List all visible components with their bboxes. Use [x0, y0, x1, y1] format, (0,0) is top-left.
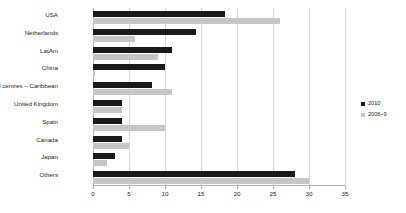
legend: 2010 2006–9 [361, 99, 387, 121]
bar-group [93, 81, 345, 99]
category-label: USA [0, 11, 58, 18]
gridline-35 [345, 8, 346, 186]
legend-item-2010[interactable]: 2010 [361, 99, 387, 108]
bar-2006-9[interactable] [93, 89, 172, 95]
bar-group [93, 28, 345, 46]
tick-mark-20 [237, 186, 238, 189]
legend-swatch-2006-9-icon [361, 113, 365, 117]
bar-group [93, 63, 345, 81]
tick-mark-25 [273, 186, 274, 189]
bar-group [93, 99, 345, 117]
bar-group [93, 46, 345, 64]
bar-2010[interactable] [93, 64, 165, 70]
bar-2006-9[interactable] [93, 178, 309, 184]
bar-2010[interactable] [93, 29, 196, 35]
legend-label-2006-9: 2006–9 [368, 110, 387, 119]
bar-2006-9[interactable] [93, 71, 95, 77]
bar-2006-9[interactable] [93, 125, 165, 131]
tick-mark-15 [201, 186, 202, 189]
tick-mark-30 [309, 186, 310, 189]
bar-2010[interactable] [93, 153, 115, 159]
tick-mark-10 [165, 186, 166, 189]
bar-group [93, 152, 345, 170]
category-label: China [0, 64, 58, 71]
bar-group [93, 135, 345, 153]
bar-chart: USANetherlandsLatAmChinaFinancial centre… [0, 0, 406, 213]
tick-label-15: 15 [189, 190, 213, 197]
category-label: Financial centres – Caribbean [0, 82, 58, 89]
plot-area [93, 8, 345, 186]
tick-label-25: 25 [261, 190, 285, 197]
bar-group [93, 10, 345, 28]
bar-2006-9[interactable] [93, 18, 280, 24]
bar-2010[interactable] [93, 136, 122, 142]
bar-2010[interactable] [93, 11, 225, 17]
bar-group [93, 170, 345, 188]
category-label: Canada [0, 136, 58, 143]
bar-group [93, 117, 345, 135]
legend-swatch-2010-icon [361, 102, 365, 106]
category-label: Netherlands [0, 29, 58, 36]
category-label: Others [0, 171, 58, 178]
bar-2010[interactable] [93, 100, 122, 106]
tick-label-30: 30 [297, 190, 321, 197]
category-label: Japan [0, 153, 58, 160]
bar-2010[interactable] [93, 47, 172, 53]
legend-label-2010: 2010 [368, 99, 380, 108]
category-label: LatAm [0, 47, 58, 54]
bar-2006-9[interactable] [93, 107, 122, 113]
bar-2006-9[interactable] [93, 36, 135, 42]
bar-2006-9[interactable] [93, 160, 107, 166]
category-label: Spain [0, 118, 58, 125]
bar-2010[interactable] [93, 171, 295, 177]
tick-label-0: 0 [81, 190, 105, 197]
legend-item-2006-9[interactable]: 2006–9 [361, 110, 387, 119]
bar-2006-9[interactable] [93, 54, 158, 60]
tick-label-20: 20 [225, 190, 249, 197]
tick-label-5: 5 [117, 190, 141, 197]
tick-label-10: 10 [153, 190, 177, 197]
tick-mark-5 [129, 186, 130, 189]
bar-2010[interactable] [93, 118, 122, 124]
category-label: United Kingdom [0, 100, 58, 107]
tick-mark-0 [93, 186, 94, 189]
tick-mark-35 [345, 186, 346, 189]
bar-2010[interactable] [93, 82, 152, 88]
bar-2006-9[interactable] [93, 143, 129, 149]
tick-label-35: 35 [333, 190, 357, 197]
